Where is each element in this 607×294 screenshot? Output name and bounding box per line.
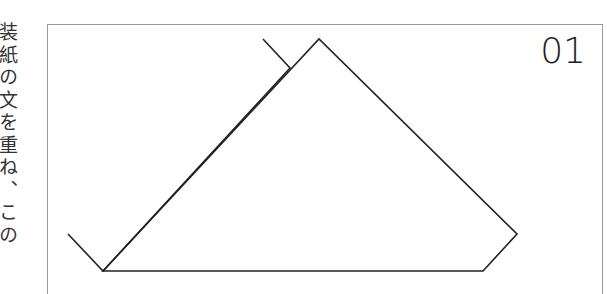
- front-pentagon-outline: [103, 39, 517, 271]
- back-folded-flap-outline: [68, 39, 290, 271]
